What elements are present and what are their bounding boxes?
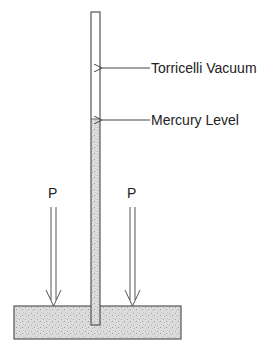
mercury-level-label: Mercury Level xyxy=(151,112,239,128)
pressure-label-left: P xyxy=(48,185,57,201)
pressure-label-right: P xyxy=(127,185,136,201)
barometer-diagram xyxy=(0,0,274,344)
pressure-arrow-right xyxy=(125,207,140,306)
torricelli-vacuum-label: Torricelli Vacuum xyxy=(151,60,257,76)
mercury-column xyxy=(91,119,100,325)
pressure-arrow-left xyxy=(46,207,61,306)
